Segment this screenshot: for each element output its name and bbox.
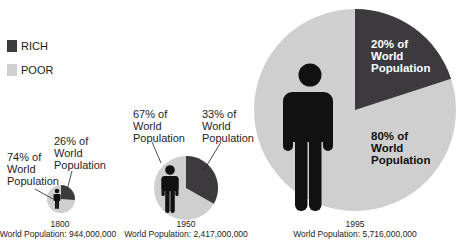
leader-line-1950-rich	[204, 142, 221, 170]
label-1800-poor: 74% of World Population	[7, 151, 59, 187]
year-1800: 1800	[51, 219, 70, 229]
population-1800: World Population: 944,000,000	[0, 229, 117, 239]
legend-label-poor: POOR	[21, 64, 53, 76]
legend-swatch-rich	[7, 40, 17, 52]
population-pie-chart: RICH POOR 74% of World Population 26% of…	[0, 0, 461, 243]
legend: RICH POOR	[7, 40, 53, 76]
population-1995: World Population: 5,716,000,000	[293, 229, 417, 239]
year-1995: 1995	[346, 219, 365, 229]
pie-1950: 67% of World Population 33% of World Pop…	[124, 108, 254, 239]
pie-1995: 20% of World Population 80% of World Pop…	[254, 9, 456, 239]
leader-line-1950-poor	[152, 142, 161, 163]
label-1950-poor: 67% of World Population	[133, 108, 185, 144]
leader-line-1800-rich	[67, 171, 72, 190]
label-1950-rich: 33% of World Population	[202, 108, 254, 144]
year-1950: 1950	[177, 219, 196, 229]
label-1800-rich: 26% of World Population	[54, 135, 106, 171]
legend-label-rich: RICH	[21, 40, 48, 52]
legend-swatch-poor	[7, 64, 17, 76]
population-1950: World Population: 2,417,000,000	[124, 229, 248, 239]
pie-1800: 74% of World Population 26% of World Pop…	[0, 135, 117, 239]
